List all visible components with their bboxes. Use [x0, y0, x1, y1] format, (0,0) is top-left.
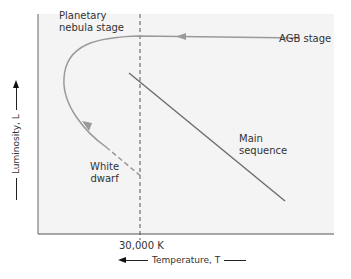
- arrow-line: [224, 260, 246, 261]
- arrow-up-icon: [13, 80, 19, 88]
- white-dwarf-label: White dwarf: [90, 161, 119, 185]
- white-dwarf-label-line1: White: [90, 161, 119, 173]
- arrow-line: [16, 178, 17, 200]
- main-sequence-label-line1: Main: [239, 133, 287, 145]
- y-axis-label: Luminosity, L: [11, 80, 21, 200]
- planetary-nebula-label-line1: Planetary: [59, 10, 124, 22]
- x-axis-label: Temperature, T: [118, 255, 246, 265]
- track-arrowhead-left-icon: [176, 33, 186, 40]
- agb-stage-label: AGB stage: [279, 33, 331, 45]
- x-axis-label-text: Temperature, T: [152, 255, 220, 265]
- planetary-nebula-label-line2: nebula stage: [59, 22, 124, 34]
- planetary-nebula-label: Planetary nebula stage: [59, 10, 124, 34]
- main-sequence-label: Main sequence: [239, 133, 287, 157]
- temperature-tick-label: 30,000 K: [119, 240, 164, 252]
- evolution-track: [64, 36, 300, 147]
- arrow-line: [16, 88, 17, 110]
- y-axis-label-text: Luminosity, L: [11, 114, 21, 174]
- main-sequence-label-line2: sequence: [239, 145, 287, 157]
- white-dwarf-label-line2: dwarf: [90, 173, 119, 185]
- arrow-line: [126, 260, 148, 261]
- arrow-left-icon: [118, 257, 126, 263]
